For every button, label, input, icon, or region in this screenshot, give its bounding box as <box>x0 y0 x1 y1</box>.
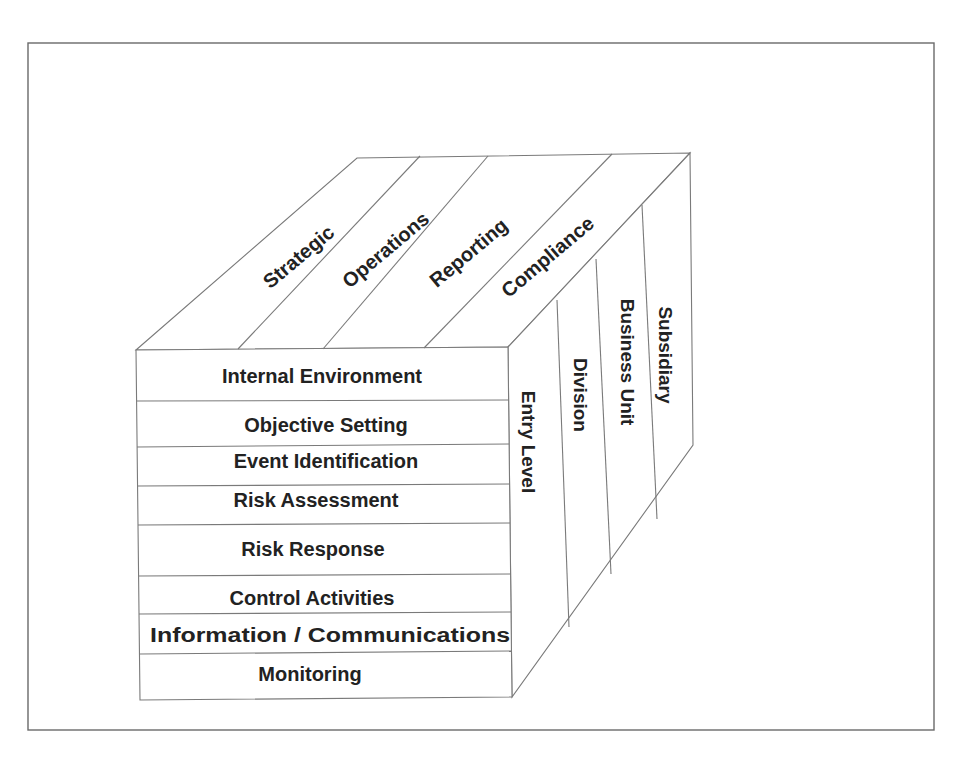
component-control-activities: Control Activities <box>230 587 395 609</box>
unit-subsidiary: Subsidiary <box>655 306 676 404</box>
unit-business-unit: Business Unit <box>617 299 638 426</box>
unit-division: Division <box>570 358 591 432</box>
erm-cube-diagram: Strategic Operations Reporting Complianc… <box>0 0 962 777</box>
component-internal-environment: Internal Environment <box>222 365 422 387</box>
component-event-identification: Event Identification <box>234 450 418 472</box>
component-risk-assessment: Risk Assessment <box>234 489 399 511</box>
unit-entry-level: Entry Level <box>518 391 539 493</box>
component-risk-response: Risk Response <box>241 538 384 560</box>
component-objective-setting: Objective Setting <box>244 414 407 436</box>
component-information-communications: Information / Communications <box>150 624 510 646</box>
component-monitoring: Monitoring <box>258 663 361 685</box>
